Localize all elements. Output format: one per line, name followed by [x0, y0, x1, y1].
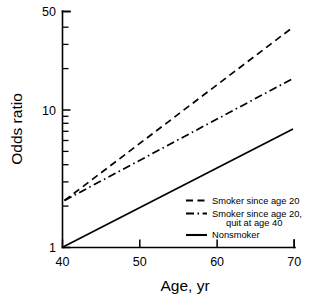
x-axis-ticks	[63, 240, 295, 248]
x-tick-label-70: 70	[287, 255, 301, 269]
legend-label-smoker-since-age-20: Smoker since age 20	[212, 196, 299, 206]
x-tick-label-60: 60	[210, 255, 224, 269]
caption-partial	[0, 299, 310, 304]
x-tick-label-40: 40	[56, 255, 70, 269]
y-axis-minor-ticks	[63, 27, 69, 206]
series-line-smoker-quit-at-age-40	[65, 79, 294, 201]
legend-label-smoker-quit-at-age-40-line2: quit at age 40	[226, 218, 282, 228]
legend: Smoker since age 20 Smoker since age 20,…	[186, 196, 302, 241]
y-tick-label-10: 10	[42, 104, 56, 118]
y-tick-label-50: 50	[42, 5, 56, 19]
y-axis-title: Odds ratio	[8, 93, 25, 165]
x-tick-label-50: 50	[133, 255, 147, 269]
y-axis-major-ticks	[63, 12, 71, 248]
figure-container: 50 10 1 40 50 60 70 Odds ratio Age, yr S…	[0, 0, 310, 304]
odds-ratio-log-line-chart: 50 10 1 40 50 60 70 Odds ratio Age, yr S…	[0, 0, 310, 304]
y-tick-label-1: 1	[49, 241, 56, 255]
x-axis-title: Age, yr	[160, 277, 209, 294]
series-line-smoker-since-age-20	[65, 27, 294, 200]
legend-label-nonsmoker: Nonsmoker	[212, 230, 260, 240]
